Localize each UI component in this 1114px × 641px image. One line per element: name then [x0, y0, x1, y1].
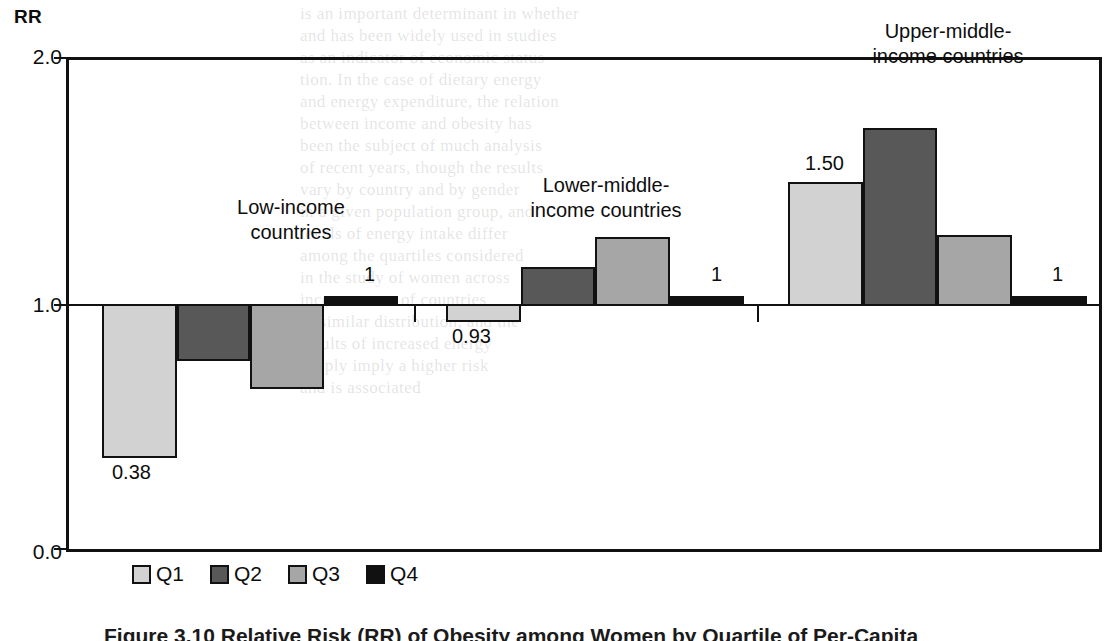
legend-item-q4[interactable]: Q4 [366, 562, 418, 586]
bar-low-income-q2[interactable] [177, 304, 250, 361]
bar-value-lower-middle-income-q1: 0.93 [452, 325, 491, 348]
bar-value-low-income-q4: 1 [364, 263, 375, 286]
legend-item-q1[interactable]: Q1 [132, 562, 184, 586]
legend-swatch-icon-q4 [366, 565, 385, 584]
y-tick-mark-0-0 [54, 548, 68, 550]
legend-label-q3: Q3 [312, 562, 340, 586]
y-tick-mark-2-0 [54, 57, 68, 59]
figure-container: is an important determinant in whetheran… [0, 0, 1114, 641]
legend-swatch-icon-q1 [132, 565, 151, 584]
bar-lower-middle-income-q2[interactable] [521, 267, 595, 306]
group-separator-2 [757, 306, 759, 322]
bar-lower-middle-income-q4[interactable] [670, 296, 744, 306]
bar-value-lower-middle-income-q4: 1 [711, 263, 722, 286]
group-label-line1: Upper-middle- [823, 19, 1073, 44]
group-label-line2: income countries [481, 198, 731, 223]
bar-upper-middle-income-q4[interactable] [1012, 296, 1087, 306]
bleed-text-line: and has been widely used in studies [300, 26, 557, 46]
bleed-text-line: is an important determinant in whether [300, 4, 579, 24]
group-label-lower-middle-income: Lower-middle- income countries [481, 173, 731, 223]
legend-label-q2: Q2 [234, 562, 262, 586]
legend-swatch-icon-q3 [288, 565, 307, 584]
bar-upper-middle-income-q3[interactable] [937, 235, 1012, 306]
legend-item-q3[interactable]: Q3 [288, 562, 340, 586]
bar-lower-middle-income-q1[interactable] [446, 304, 521, 322]
group-label-low-income: Low-income countries [166, 195, 416, 245]
bar-low-income-q1[interactable] [102, 304, 177, 458]
group-label-upper-middle-income: Upper-middle- income countries [823, 19, 1073, 69]
x-axis-line [66, 549, 1102, 552]
y-axis-title: RR [14, 6, 42, 28]
legend-label-q1: Q1 [156, 562, 184, 586]
bar-value-upper-middle-income-q1: 1.50 [805, 152, 844, 175]
bar-value-low-income-q1: 0.38 [112, 461, 151, 484]
legend-swatch-icon-q2 [210, 565, 229, 584]
figure-caption: Figure 3.10 Relative Risk (RR) of Obesit… [104, 624, 918, 641]
y-tick-label-0-0: 0.0 [6, 540, 62, 564]
group-label-line2: income countries [823, 44, 1073, 69]
legend-item-q2[interactable]: Q2 [210, 562, 262, 586]
group-label-line2: countries [166, 220, 416, 245]
bar-low-income-q4[interactable] [324, 296, 398, 306]
bar-upper-middle-income-q1[interactable] [788, 182, 863, 306]
plot-area: Low-income countries 0.38 1 Lower-middle… [66, 57, 1102, 552]
bar-upper-middle-income-q2[interactable] [863, 128, 937, 306]
group-label-line1: Lower-middle- [481, 173, 731, 198]
group-separator-1 [414, 306, 416, 322]
legend: Q1 Q2 Q3 Q4 [132, 562, 418, 586]
legend-label-q4: Q4 [390, 562, 418, 586]
group-label-line1: Low-income [166, 195, 416, 220]
bar-value-upper-middle-income-q4: 1 [1052, 263, 1063, 286]
bar-low-income-q3[interactable] [250, 304, 324, 389]
bar-lower-middle-income-q3[interactable] [595, 237, 670, 306]
